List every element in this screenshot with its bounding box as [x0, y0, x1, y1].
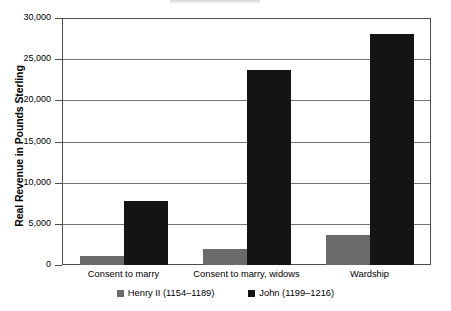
y-tick-label-20000: 20,000 [0, 95, 51, 104]
y-tick-30000 [55, 18, 62, 19]
bar [80, 256, 124, 265]
y-tick-15000 [55, 142, 62, 143]
scan-artifact [170, 0, 260, 4]
y-tick-10000 [55, 183, 62, 184]
y-tick-25000 [55, 59, 62, 60]
bar-group [80, 18, 168, 265]
y-tick-label-30000: 30,000 [0, 13, 51, 22]
bar-chart: Real Revenue in Pounds Sterling 30,00025… [0, 0, 451, 311]
legend: Henry II (1154–1189)John (1199–1216) [0, 288, 451, 298]
bar [203, 249, 247, 265]
bar-group [203, 18, 291, 265]
y-tick-label-15000: 15,000 [0, 137, 51, 146]
bar [370, 34, 414, 265]
bars-layer [62, 18, 431, 265]
x-axis-label: Consent to marry [62, 269, 185, 279]
bar [124, 201, 168, 265]
y-tick-0 [55, 265, 62, 266]
legend-label: Henry II (1154–1189) [128, 288, 214, 298]
y-tick-label-10000: 10,000 [0, 178, 51, 187]
legend-swatch-icon [248, 290, 255, 297]
bar-group [326, 18, 414, 265]
y-tick-label-5000: 5,000 [0, 219, 51, 228]
y-tick-label-0: 0 [0, 260, 51, 269]
bar [326, 235, 370, 265]
y-tick-20000 [55, 100, 62, 101]
legend-item: John (1199–1216) [248, 288, 334, 298]
legend-item: Henry II (1154–1189) [117, 288, 214, 298]
legend-label: John (1199–1216) [259, 288, 334, 298]
y-tick-5000 [55, 224, 62, 225]
y-tick-label-25000: 25,000 [0, 54, 51, 63]
x-axis-label: Wardship [308, 269, 431, 279]
legend-swatch-icon [117, 290, 124, 297]
bar [247, 70, 291, 265]
x-axis-label: Consent to marry, widows [185, 269, 308, 279]
